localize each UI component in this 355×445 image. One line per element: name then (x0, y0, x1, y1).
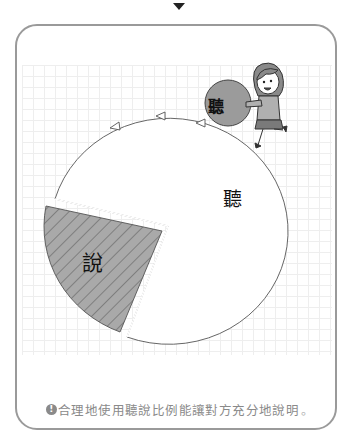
arrow-left-icon (110, 122, 120, 130)
caption-end-punct: 。 (301, 400, 314, 419)
pie-diagram (0, 0, 355, 445)
exclamation-circle-icon: ! (46, 404, 57, 415)
speak-label: 說 (82, 246, 103, 276)
girl-character (246, 63, 287, 148)
listen-label: 聽 (223, 184, 242, 211)
ball-label: 聽 (208, 93, 224, 117)
caption-text: 合理地使用聽說比例能讓對方充分地說明 (58, 400, 299, 419)
caption: ! 合理地使用聽說比例能讓對方充分地說明 。 (46, 400, 315, 419)
